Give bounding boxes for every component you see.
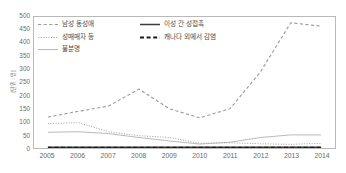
y-axis-tick: 150 [8, 106, 30, 112]
legend-label: 이성 간 성접촉 [164, 18, 204, 29]
legend-line-sample [140, 23, 160, 26]
y-axis-tick: 350 [8, 53, 30, 59]
legend-label: 남성 동성애 [62, 18, 94, 29]
y-axis-tick: 50 [8, 133, 30, 139]
legend-line-sample [140, 36, 160, 39]
series-line-불분명 [48, 132, 321, 144]
y-axis-tick: 450 [8, 26, 30, 32]
legend-label: 캐나다 외에서 감염 [164, 31, 216, 42]
series-line-성매매자-등 [48, 123, 321, 145]
legend-label: 성매매자 등 [62, 31, 94, 42]
y-axis-tick: 300 [8, 66, 30, 72]
y-axis-tick: 500 [8, 13, 30, 19]
x-axis-tick: 2014 [302, 152, 342, 159]
legend-line-sample [38, 36, 58, 39]
legend-label: 불분명 [62, 43, 80, 54]
chart-container: [단위 : 명] 050100150200250300350400450500 … [0, 0, 346, 173]
legend-line-sample [38, 23, 58, 26]
y-axis-tick: 100 [8, 119, 30, 125]
y-axis-tick: 200 [8, 93, 30, 99]
y-axis-tick: 400 [8, 39, 30, 45]
legend-line-sample [38, 48, 58, 51]
y-axis-tick: 250 [8, 79, 30, 85]
chart-legend: 남성 동성애성매매자 등불분명이성 간 성접촉캐나다 외에서 감염 [38, 18, 253, 60]
